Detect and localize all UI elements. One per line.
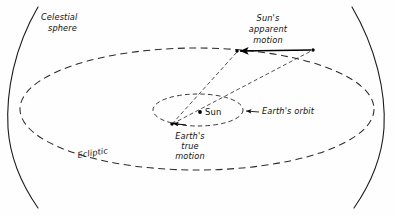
celestial-point-b-marker [311,48,314,51]
suns-apparent-motion-label-line1: Sun's [257,13,280,23]
suns-apparent-motion-label-line2: apparent [249,24,288,34]
earths-true-motion-label-line2: true [181,141,198,151]
sun-label: Sun [205,107,221,117]
earths-orbit-label: Earth's orbit [262,106,315,116]
earths-true-motion-label-line3: motion [175,151,205,161]
earths-true-motion-arrow [173,124,186,126]
earths-orbit-pointer-arrow [246,111,259,112]
earths-true-motion-label-line1: Earth's [175,131,205,141]
earth-marker [170,122,173,125]
celestial-sphere-left-arc [8,7,38,208]
celestial-sphere-right-arc [352,7,384,208]
celestial-point-a-marker [235,49,238,52]
celestial-sphere-diagram: Celestial sphere Sun's apparent motion E… [0,0,394,215]
diagram-canvas: Celestial sphere Sun's apparent motion E… [0,0,394,215]
celestial-sphere-label-line2: sphere [48,23,77,33]
ecliptic-label: Ecliptic [77,145,109,160]
suns-apparent-motion-label-line3: motion [253,35,283,45]
sun-marker [198,110,202,114]
celestial-sphere-label-line1: Celestial [41,12,78,22]
suns-apparent-motion-arrow [240,50,311,51]
